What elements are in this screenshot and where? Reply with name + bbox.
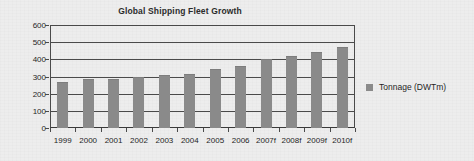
gridline-600 xyxy=(50,25,355,26)
y-tick-label-0: 0 xyxy=(2,124,46,133)
y-tick-mark-0 xyxy=(45,128,49,129)
legend-swatch-icon xyxy=(366,84,373,91)
x-tick-mark-origin xyxy=(50,128,51,132)
bar-2006 xyxy=(235,66,246,128)
x-tick-mark-1999 xyxy=(75,128,76,132)
bar-2007f xyxy=(261,59,272,128)
x-tick-mark-2005 xyxy=(228,128,229,132)
y-tick-label-200: 200 xyxy=(2,89,46,98)
gridline-400 xyxy=(50,59,355,60)
x-tick-label-1999: 1999 xyxy=(54,136,72,145)
gridline-100 xyxy=(50,111,355,112)
bar-2009f xyxy=(311,52,322,128)
x-tick-label-2006: 2006 xyxy=(232,136,250,145)
x-axis: 199920002001200220032004200520062007f200… xyxy=(50,128,355,158)
x-tick-mark-2003 xyxy=(177,128,178,132)
x-tick-mark-2002 xyxy=(152,128,153,132)
x-tick-label-2010f: 2010f xyxy=(332,136,352,145)
x-tick-mark-2000 xyxy=(101,128,102,132)
y-tick-mark-500 xyxy=(45,42,49,43)
x-tick-mark-2008f xyxy=(304,128,305,132)
y-tick-label-600: 600 xyxy=(2,21,46,30)
chart-title: Global Shipping Fleet Growth xyxy=(0,6,360,16)
y-tick-mark-100 xyxy=(45,111,49,112)
x-tick-mark-2007f xyxy=(279,128,280,132)
y-axis: 0100200300400500600 xyxy=(0,25,46,128)
bar-2010f xyxy=(337,47,348,128)
x-tick-label-2007f: 2007f xyxy=(256,136,276,145)
x-tick-label-2009f: 2009f xyxy=(307,136,327,145)
bar-2003 xyxy=(159,75,170,128)
x-tick-mark-2009f xyxy=(330,128,331,132)
y-tick-label-500: 500 xyxy=(2,38,46,47)
bar-2002 xyxy=(133,77,144,129)
bar-2004 xyxy=(184,74,195,128)
x-tick-mark-2004 xyxy=(203,128,204,132)
gridline-500 xyxy=(50,42,355,43)
legend-label: Tonnage (DWTm) xyxy=(379,82,446,92)
y-tick-label-300: 300 xyxy=(2,72,46,81)
bar-2005 xyxy=(210,69,221,128)
plot-area xyxy=(50,25,355,128)
x-tick-label-2004: 2004 xyxy=(181,136,199,145)
chart-legend: Tonnage (DWTm) xyxy=(366,82,446,92)
bar-2001 xyxy=(108,79,119,128)
bar-2008f xyxy=(286,56,297,128)
x-tick-label-2000: 2000 xyxy=(79,136,97,145)
x-tick-label-2008f: 2008f xyxy=(281,136,301,145)
bar-1999 xyxy=(57,82,68,128)
y-tick-mark-400 xyxy=(45,59,49,60)
y-tick-mark-600 xyxy=(45,25,49,26)
y-tick-label-400: 400 xyxy=(2,55,46,64)
gridline-300 xyxy=(50,77,355,78)
x-tick-label-2001: 2001 xyxy=(105,136,123,145)
gridline-200 xyxy=(50,94,355,95)
x-tick-label-2005: 2005 xyxy=(206,136,224,145)
y-tick-mark-200 xyxy=(45,94,49,95)
bar-2000 xyxy=(83,79,94,128)
y-tick-label-100: 100 xyxy=(2,106,46,115)
x-tick-label-2002: 2002 xyxy=(130,136,148,145)
y-tick-mark-300 xyxy=(45,77,49,78)
x-tick-mark-2010f xyxy=(355,128,356,132)
x-tick-mark-2001 xyxy=(126,128,127,132)
x-tick-mark-2006 xyxy=(253,128,254,132)
x-tick-label-2003: 2003 xyxy=(155,136,173,145)
